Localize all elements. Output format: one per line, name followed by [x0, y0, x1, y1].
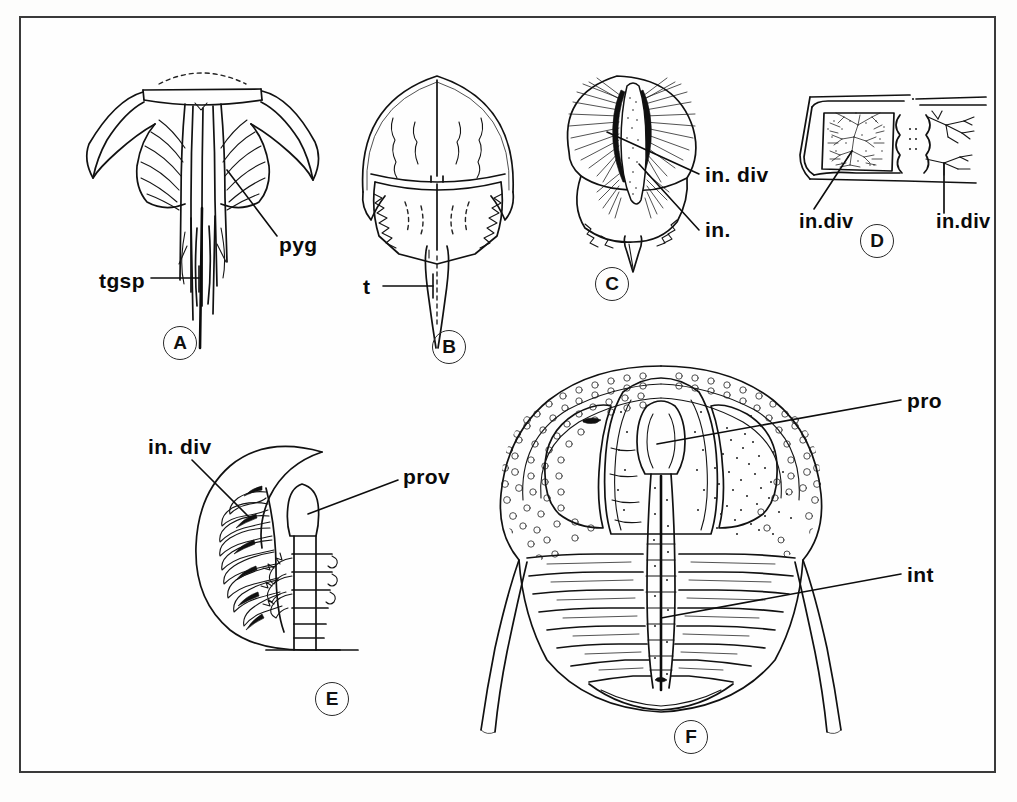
- panel-tag-a: A: [163, 326, 197, 360]
- panel-c: in. div in.: [541, 56, 741, 276]
- panel-tag-e: E: [315, 682, 349, 716]
- label-e-in-div: in. div: [148, 436, 211, 457]
- panel-tag-f: F: [674, 720, 708, 754]
- panel-tag-d: D: [860, 224, 894, 258]
- label-d-in-div-right: in.div: [936, 211, 991, 231]
- panel-d-artwork: [796, 73, 996, 223]
- label-c-in: in.: [705, 219, 731, 240]
- figure-frame-border: tgsp pyg A: [19, 16, 996, 773]
- label-e-prov: prov: [403, 466, 450, 487]
- label-pyg: pyg: [279, 234, 318, 255]
- panel-tag-c: C: [595, 267, 629, 301]
- panel-d: in.div in.div: [796, 73, 996, 223]
- label-f-int: int: [907, 564, 934, 585]
- label-d-in-div-left: in.div: [799, 211, 854, 231]
- panel-f: pro int: [461, 348, 881, 758]
- panel-b: t: [341, 50, 561, 350]
- panel-e: in. div prov: [126, 418, 416, 678]
- label-t: t: [363, 276, 370, 297]
- label-c-in-div: in. div: [705, 164, 768, 185]
- panel-a-artwork: [81, 48, 351, 348]
- panel-b-artwork: [341, 50, 561, 350]
- label-f-pro: pro: [907, 390, 942, 411]
- panel-a: tgsp pyg: [81, 48, 351, 348]
- label-tgsp: tgsp: [99, 270, 145, 291]
- panel-f-artwork: [461, 348, 881, 758]
- figure-root: tgsp pyg A: [0, 0, 1017, 802]
